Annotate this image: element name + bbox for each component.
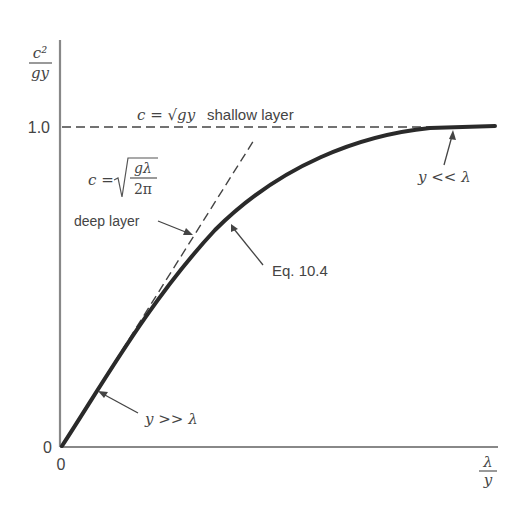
svg-text:c =: c = (88, 171, 114, 189)
short-wave-label: y << λ (417, 168, 471, 186)
x-tick-0: 0 (57, 456, 66, 473)
svg-text:gλ: gλ (134, 160, 152, 176)
y-axis-label: c² gy (29, 44, 52, 82)
svg-text:c²: c² (33, 44, 47, 62)
equation-label: Eq. 10.4 (272, 262, 328, 279)
svg-text:2π: 2π (134, 181, 152, 197)
x-axis-label: λ y (479, 453, 497, 489)
shallow-label: shallow layer (207, 106, 294, 123)
y-tick-1: 1.0 (28, 119, 50, 136)
equation-arrow (231, 224, 263, 265)
long-wave-label: y >> λ (144, 410, 198, 428)
deep-formula: c = gλ 2π (88, 158, 158, 197)
wave-speed-diagram: c² gy λ y 1.0 0 0 c = √gy shallow layer … (0, 0, 526, 515)
y-tick-0: 0 (43, 439, 52, 456)
svg-text:y: y (483, 471, 493, 489)
deep-arrow (158, 221, 193, 235)
svg-text:gy: gy (31, 64, 50, 82)
shallow-formula: c = √gy (137, 106, 196, 124)
deep-label: deep layer (74, 213, 140, 229)
svg-text:λ: λ (482, 453, 493, 471)
long-wave-arrow (98, 391, 138, 413)
short-wave-arrow (444, 130, 456, 165)
